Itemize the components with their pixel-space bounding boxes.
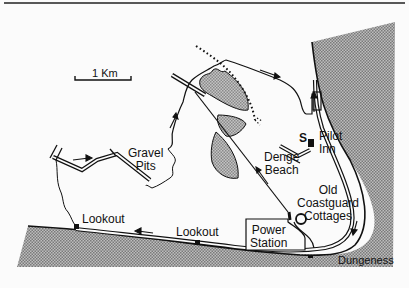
dungeness-label: Dungeness xyxy=(338,254,394,267)
old-coastguard-cottages-label: Old Coastguard Cottages xyxy=(297,184,359,223)
dungeness-marker xyxy=(308,255,313,258)
lookout-west-label: Lookout xyxy=(82,213,125,226)
walk-route-west xyxy=(56,160,76,226)
lookout-mid-label: Lookout xyxy=(176,226,219,239)
coastline xyxy=(28,42,365,255)
pilot-inn-label: Pilot Inn xyxy=(319,130,342,156)
map-graphic xyxy=(0,0,409,288)
gravel-pit-lake-3 xyxy=(211,132,238,178)
pilot-inn-marker xyxy=(308,139,314,147)
s-marker-label: S xyxy=(299,132,307,145)
denge-beach-label: Denge Beach xyxy=(264,151,299,177)
scale-bar-label: 1 Km xyxy=(92,67,118,80)
route-map: 1 Km Gravel Pits S Pilot Inn Denge Beach… xyxy=(0,0,409,288)
power-station-label: Power Station xyxy=(250,224,287,250)
gravel-pit-lake-1 xyxy=(200,69,249,110)
gravel-pits-label: Gravel Pits xyxy=(128,147,163,173)
lookout-mid-marker xyxy=(195,240,200,245)
lookout-west-marker xyxy=(74,224,79,229)
